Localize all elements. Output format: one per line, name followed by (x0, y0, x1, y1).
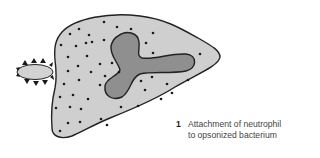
diagram-canvas: 1 Attachment of neutrophil to opsonized … (0, 0, 320, 158)
bacterium (17, 65, 53, 80)
figure-caption: 1 Attachment of neutrophil to opsonized … (176, 119, 281, 140)
caption-line-1: Attachment of neutrophil (176, 119, 281, 130)
caption-line-2: to opsonized bacterium (176, 130, 281, 141)
step-number: 1 (176, 119, 181, 130)
